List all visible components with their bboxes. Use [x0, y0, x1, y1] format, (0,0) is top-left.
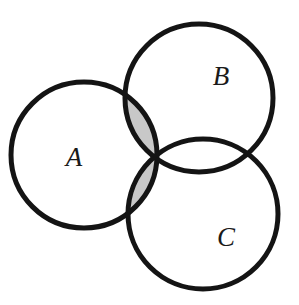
venn-diagram-figure: A B C [0, 0, 299, 305]
set-label-b: B [213, 61, 230, 91]
venn-diagram-canvas: A B C [0, 0, 299, 305]
set-label-c: C [217, 222, 236, 252]
set-label-a: A [64, 142, 83, 172]
